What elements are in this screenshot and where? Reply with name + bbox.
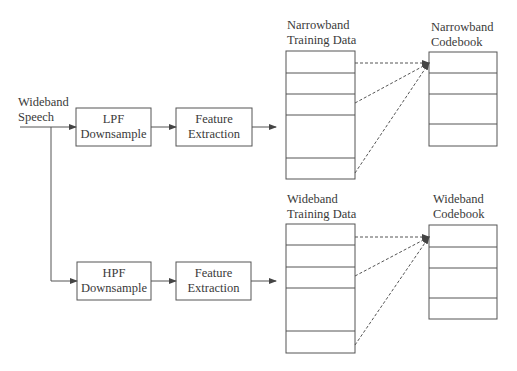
top-feature-line1: Feature: [195, 112, 232, 127]
top-feature-extraction-label: Feature Extraction: [176, 108, 252, 146]
diagram-canvas: [0, 0, 517, 371]
input-label-line2: Speech: [18, 110, 69, 125]
branch-line: [51, 127, 77, 281]
bottom-feature-extraction-label: Feature Extraction: [176, 262, 251, 300]
hpf-label-line1: HPF: [103, 266, 126, 281]
lpf-label-line1: LPF: [103, 112, 125, 127]
narrowband-training-data-title: Narrowband Training Data: [287, 18, 356, 48]
nb-codebook-line1: Narrowband: [431, 20, 493, 35]
nb-train-line1: Narrowband: [287, 18, 356, 33]
wb-codebook-line1: Wideband: [433, 192, 484, 207]
top-feature-line2: Extraction: [188, 127, 240, 142]
wideband-codebook-title: Wideband Codebook: [433, 192, 484, 222]
bottom-feature-line1: Feature: [195, 266, 232, 281]
input-label-line1: Wideband: [18, 95, 69, 110]
hpf-downsample-label: HPF Downsample: [77, 262, 151, 300]
lpf-label-line2: Downsample: [81, 127, 147, 142]
hpf-label-line2: Downsample: [81, 281, 147, 296]
narrowband-codebook-table: [429, 52, 497, 146]
wideband-training-data-title: Wideband Training Data: [287, 192, 356, 222]
wideband-mapping-arrows: [355, 237, 429, 345]
wb-train-line2: Training Data: [287, 207, 356, 222]
wideband-codebook-table: [429, 225, 497, 319]
bottom-feature-line2: Extraction: [187, 281, 239, 296]
wb-codebook-line2: Codebook: [433, 207, 484, 222]
nb-codebook-line2: Codebook: [431, 35, 493, 50]
input-label: Wideband Speech: [18, 95, 69, 125]
narrowband-codebook-title: Narrowband Codebook: [431, 20, 493, 50]
wb-train-line1: Wideband: [287, 192, 356, 207]
nb-train-line2: Training Data: [287, 33, 356, 48]
narrowband-mapping-arrows: [355, 63, 429, 173]
lpf-downsample-label: LPF Downsample: [76, 108, 151, 146]
